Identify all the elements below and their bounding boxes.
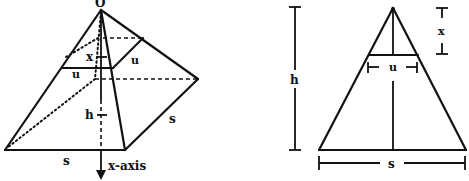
x-axis-arrow-icon: [96, 170, 106, 180]
edge-apex-front-right: [101, 10, 125, 150]
label-height-h: h: [290, 73, 299, 87]
triangle-figure: u h x s: [289, 7, 466, 171]
triangle-left-side: [319, 8, 393, 150]
edge-apex-right: [101, 10, 198, 79]
triangle-right-side: [393, 8, 466, 150]
label-base-s: s: [388, 157, 395, 171]
label-section-u: u: [389, 61, 397, 74]
hidden-edge-base-diagonal: [7, 79, 95, 148]
label-x-axis: x-axis: [108, 159, 146, 173]
base-right-edge: [125, 79, 198, 150]
label-section-u-right: u: [131, 54, 139, 67]
label-apex-o: O: [95, 0, 105, 10]
edge-apex-front-left: [5, 10, 101, 150]
label-section-u-front: u: [72, 68, 80, 81]
label-base-s-front: s: [63, 154, 70, 168]
label-depth-x: x: [86, 50, 94, 64]
pyramid-figure: O x u u h s s x-axis: [5, 0, 198, 180]
label-height-h: h: [85, 108, 94, 122]
label-base-s-right: s: [169, 112, 176, 126]
pyramid-volume-diagram: O x u u h s s x-axis u h: [0, 0, 469, 181]
label-depth-x: x: [438, 25, 445, 38]
